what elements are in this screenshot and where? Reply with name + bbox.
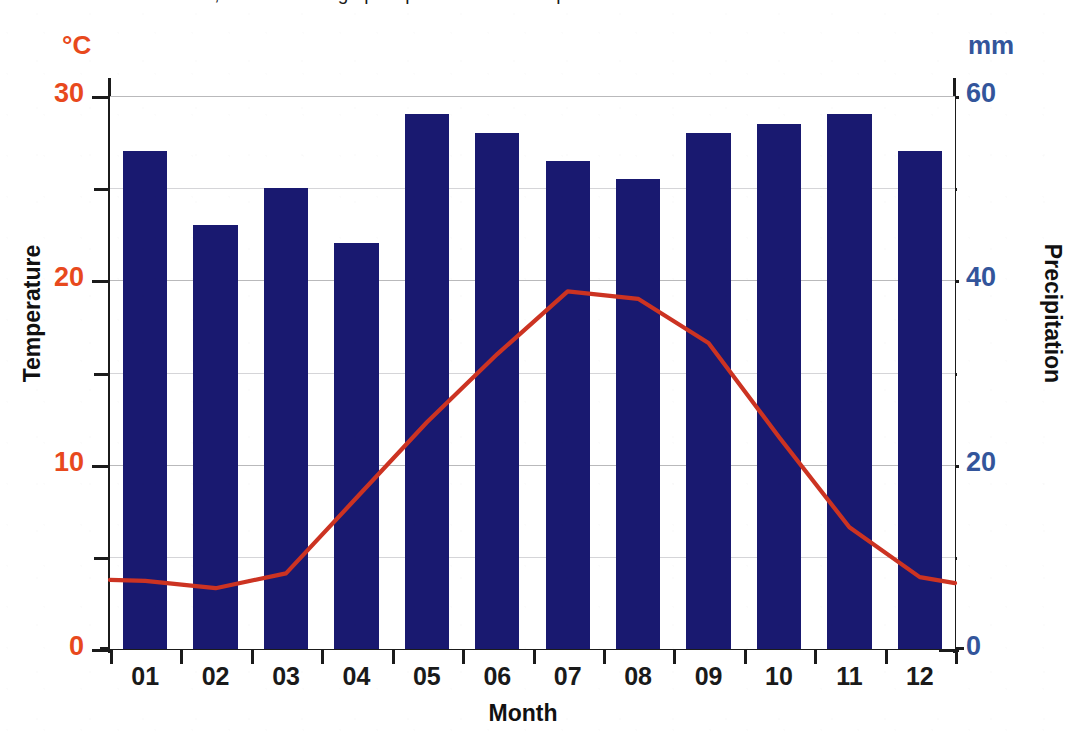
x-axis-tick-label: 09 (674, 662, 744, 691)
right-axis-tick-label: 40 (966, 262, 1024, 293)
temperature-polyline (110, 291, 955, 588)
left-axis-tick (92, 649, 112, 652)
x-axis-tick-label: 01 (110, 662, 180, 691)
clipped-page-title-text: climatic conditions, with an average pre… (60, 0, 642, 5)
left-axis-unit-label: °C (62, 30, 91, 61)
left-axis-tick (94, 188, 110, 191)
left-axis-tick-label: 10 (26, 447, 84, 478)
left-axis-tick (94, 373, 110, 376)
x-axis-tick-label: 08 (603, 662, 673, 691)
left-axis-title: Temperature (19, 204, 46, 424)
left-axis-tick-label: 30 (26, 78, 84, 109)
x-axis-tick-label: 07 (533, 662, 603, 691)
x-axis-tick-label: 06 (462, 662, 532, 691)
right-axis-tick-label: 60 (966, 78, 1024, 109)
x-axis-tick-label: 11 (814, 662, 884, 691)
right-axis-unit-label: mm (968, 30, 1014, 61)
left-axis-tick (94, 557, 110, 560)
x-axis-tick-label: 02 (181, 662, 251, 691)
right-axis-title: Precipitation (1039, 204, 1066, 424)
left-axis-tick-label: 0 (26, 631, 84, 662)
right-axis-tick-label: 20 (966, 447, 1024, 478)
x-axis-tick-label: 04 (321, 662, 391, 691)
left-axis-tick (92, 96, 112, 99)
right-axis-tick-label: 0 (966, 631, 1024, 662)
temperature-line-series (110, 96, 955, 649)
left-axis-tick (92, 465, 112, 468)
x-axis-tick-label: 05 (392, 662, 462, 691)
x-axis-tick-label: 03 (251, 662, 321, 691)
x-axis-tick (955, 650, 958, 664)
x-axis-title: Month (0, 700, 1046, 727)
left-axis-tick (92, 280, 112, 283)
plot-area (110, 96, 955, 649)
clipped-page-title: climatic conditions, with an average pre… (0, 0, 1046, 16)
x-axis-tick-label: 12 (885, 662, 955, 691)
left-axis-tick-label: 20 (26, 262, 84, 293)
x-axis-tick-label: 10 (744, 662, 814, 691)
